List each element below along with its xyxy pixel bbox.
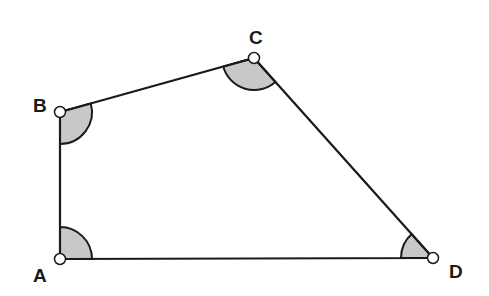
vertex-a <box>55 254 66 265</box>
angle-marks <box>60 58 433 259</box>
label-c: C <box>249 27 263 48</box>
label-a: A <box>33 265 47 286</box>
label-b: B <box>33 95 47 116</box>
quadrilateral-diagram: A B C D <box>0 0 489 296</box>
angle-a <box>60 227 92 259</box>
vertex-d <box>428 253 439 264</box>
vertex-b <box>55 107 66 118</box>
label-d: D <box>449 261 463 282</box>
vertex-c <box>249 53 260 64</box>
